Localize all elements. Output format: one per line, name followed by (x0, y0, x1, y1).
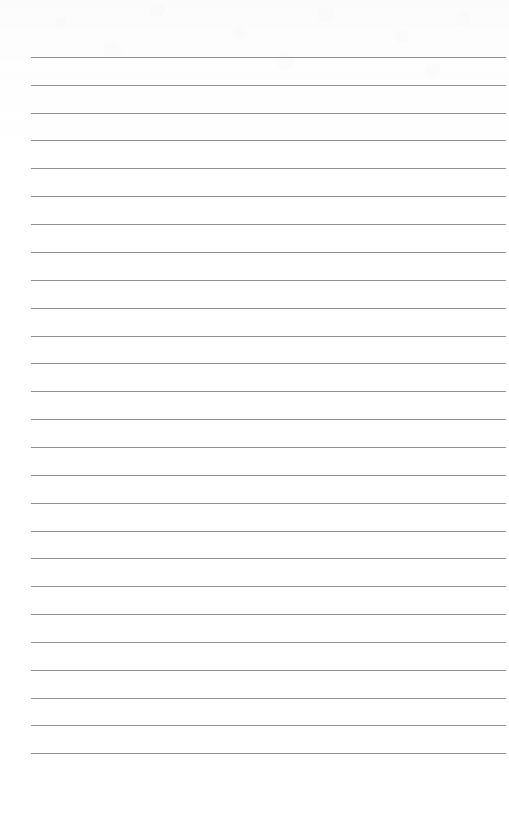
rule-line (31, 224, 506, 225)
rule-line (31, 140, 506, 141)
rule-line (31, 57, 506, 58)
rule-line (31, 698, 506, 699)
rule-line (31, 475, 506, 476)
rule-line (31, 670, 506, 671)
rule-line (31, 586, 506, 587)
ruled-lines-layer (0, 0, 509, 828)
rule-line (31, 447, 506, 448)
rule-line (31, 336, 506, 337)
rule-line (31, 614, 506, 615)
rule-line (31, 85, 506, 86)
rule-line (31, 725, 506, 726)
rule-line (31, 419, 506, 420)
rule-line (31, 168, 506, 169)
rule-line (31, 113, 506, 114)
rule-line (31, 558, 506, 559)
rule-line (31, 642, 506, 643)
rule-line (31, 280, 506, 281)
rule-line (31, 391, 506, 392)
rule-line (31, 363, 506, 364)
rule-line (31, 196, 506, 197)
notebook-page (0, 0, 509, 828)
rule-line (31, 308, 506, 309)
rule-line (31, 753, 506, 754)
rule-line (31, 531, 506, 532)
rule-line (31, 252, 506, 253)
rule-line (31, 503, 506, 504)
